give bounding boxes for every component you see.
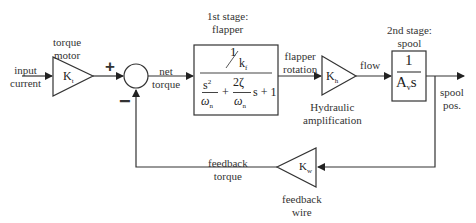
tf-plus: + bbox=[222, 86, 229, 99]
kw-gain: Kw bbox=[299, 160, 312, 178]
kh-gain: Kh bbox=[326, 70, 338, 88]
tf-den-line-1 bbox=[202, 92, 218, 93]
kt-gain: Kt bbox=[63, 70, 74, 88]
tf-den-s2: s2 bbox=[203, 76, 211, 92]
input-current-label: inputcurrent bbox=[10, 64, 41, 90]
torque-motor-label: torquemotor bbox=[53, 36, 81, 62]
first-stage-label: 1st stage:flapper bbox=[207, 10, 248, 36]
flow-label: flow bbox=[360, 59, 380, 72]
tf-den-line-2 bbox=[233, 92, 251, 93]
net-torque-label: nettorque bbox=[152, 65, 180, 91]
tf-zeta: 2ζ bbox=[233, 76, 244, 89]
feedback-wire-label: feedbackwire bbox=[282, 193, 322, 219]
tf-tail: s + 1 bbox=[253, 86, 276, 99]
tf-num-one: 1 bbox=[230, 45, 237, 58]
summing-junction bbox=[124, 64, 148, 88]
tf-zeta-wn: ωn bbox=[234, 95, 246, 113]
hydraulic-amplification-label: Hydraulicamplification bbox=[303, 101, 362, 127]
spool-tf-num: 1 bbox=[405, 54, 413, 67]
tf-den-wn2: ωn bbox=[201, 95, 213, 113]
plus-sign: + bbox=[105, 60, 115, 73]
flapper-rotation-label: flapperrotation bbox=[283, 50, 317, 76]
spool-tf-den: Avs bbox=[396, 76, 417, 94]
minus-sign: − bbox=[119, 95, 131, 108]
second-stage-label: 2nd stage:spool bbox=[387, 24, 432, 50]
tf-num-kf: kf bbox=[239, 57, 247, 75]
spool-pos-label: spoolpos. bbox=[440, 86, 464, 112]
feedback-torque-label: feedbacktorque bbox=[208, 157, 248, 183]
